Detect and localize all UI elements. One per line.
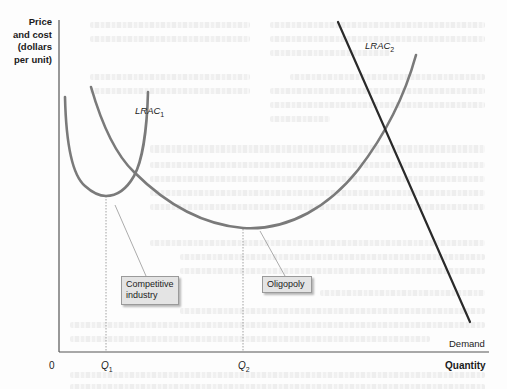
x-axis-label: Quantity [445,360,486,371]
q2-tick-label: Q2 [238,360,250,373]
competitive-leader-line [115,205,146,276]
lrac2-label-main: LRAC [365,40,390,51]
q2-subscript: 2 [246,366,250,373]
y-axis-label: Price and cost (dollars per unit) [4,16,52,66]
origin-label: 0 [49,360,55,371]
chart-figure: Price and cost (dollars per unit) 0 Q1 Q… [0,0,507,389]
lrac1-label: LRAC1 [135,105,164,118]
demand-label: Demand [449,338,485,349]
lrac2-label: LRAC2 [365,40,394,53]
oligopoly-callout: Oligopoly [262,276,312,293]
oligopoly-leader-line [260,231,285,276]
q1-tick-label: Q1 [101,360,113,373]
lrac1-label-main: LRAC [135,105,160,116]
competitive-industry-callout: Competitive industry [121,276,179,305]
q1-main: Q [101,360,109,371]
q2-main: Q [238,360,246,371]
lrac2-curve [91,55,416,228]
lrac2-label-subscript: 2 [390,46,394,53]
chart-plot-area [0,0,507,389]
q1-subscript: 1 [109,366,113,373]
lrac1-label-subscript: 1 [160,111,164,118]
